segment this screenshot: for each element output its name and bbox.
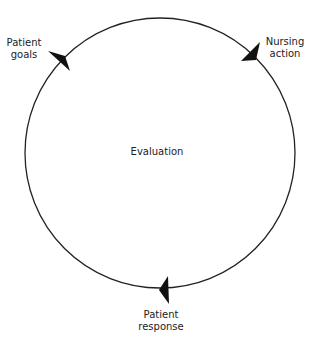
nursing-process-cycle-diagram: Patient goals Nursing action Evaluation … [0,0,312,341]
arrow-patient-goals-icon [48,51,70,71]
arrow-patient-response-icon [159,276,169,304]
center-label-evaluation: Evaluation [120,146,194,158]
label-line: Patient [136,309,186,321]
label-line: Patient [4,37,44,49]
label-patient-response: Patient response [136,309,186,333]
label-line: goals [4,49,44,61]
label-patient-goals: Patient goals [4,37,44,61]
label-line: response [136,321,186,333]
arrow-nursing-action-icon [241,42,260,61]
label-nursing-action: Nursing action [262,36,308,60]
label-line: Nursing [262,36,308,48]
label-line: action [262,48,308,60]
